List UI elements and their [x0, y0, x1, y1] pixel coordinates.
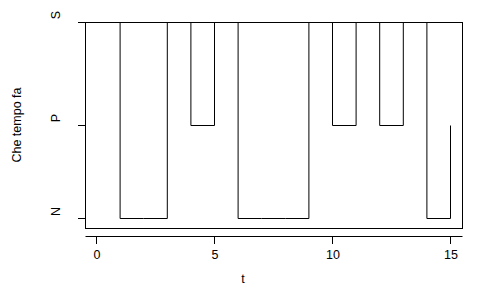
x-tick-label-5: 5	[200, 248, 230, 262]
chart-canvas	[0, 0, 486, 300]
y-tick-label-s: S	[49, 11, 63, 35]
y-axis-title: Che tempo fa	[10, 75, 24, 175]
step-plot-figure: S P N 0 5 10 15 Che tempo fa t	[0, 0, 486, 300]
plot-frame	[86, 23, 463, 229]
step-line-series	[97, 23, 451, 219]
x-tick-label-15: 15	[436, 248, 466, 262]
y-axis-ticks	[78, 23, 86, 219]
x-tick-label-0: 0	[82, 248, 112, 262]
y-tick-label-n: N	[49, 207, 63, 231]
x-tick-label-10: 10	[318, 248, 348, 262]
x-axis-ticks	[86, 237, 463, 245]
x-axis-title: t	[0, 272, 486, 286]
y-tick-label-p: P	[49, 114, 63, 138]
